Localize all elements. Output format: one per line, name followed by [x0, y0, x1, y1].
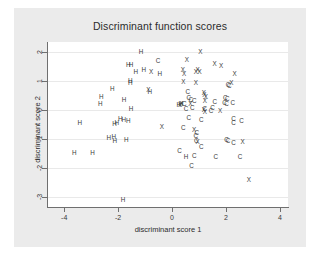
data-point-x: X: [182, 71, 186, 77]
data-point-h: H: [98, 101, 103, 107]
data-point-c: C: [230, 100, 235, 106]
chart-title: Discriminant function scores: [14, 20, 306, 32]
data-point-c: C: [213, 154, 218, 160]
y-tick: [42, 197, 47, 198]
data-point-c: C: [184, 106, 189, 112]
data-point-c: C: [192, 153, 197, 159]
data-point-h: H: [128, 79, 133, 85]
data-point-c: C: [238, 154, 243, 160]
data-point-x: X: [218, 107, 222, 113]
data-point-h: H: [158, 71, 163, 77]
data-point-x: X: [197, 69, 201, 75]
data-point-h: H: [124, 137, 129, 143]
x-tick-label: 0: [170, 214, 174, 221]
data-point-h: H: [72, 150, 77, 156]
data-point-x: X: [203, 98, 207, 104]
data-point-c: C: [156, 58, 161, 64]
data-point-c: C: [181, 125, 186, 131]
x-tick: [172, 207, 173, 212]
data-point-h: H: [112, 121, 117, 127]
data-point-x: X: [241, 139, 245, 145]
x-tick: [226, 207, 227, 212]
data-point-c: C: [189, 162, 194, 168]
data-point-h: H: [78, 120, 83, 126]
data-point-c: C: [177, 148, 182, 154]
x-tick: [280, 207, 281, 212]
data-point-h: H: [121, 197, 126, 203]
data-point-c: C: [226, 138, 231, 144]
x-tick: [64, 207, 65, 212]
gridline: [48, 168, 288, 169]
data-point-h: H: [134, 68, 139, 74]
y-tick: [42, 139, 47, 140]
data-point-x: X: [160, 124, 164, 130]
data-point-c: C: [210, 105, 215, 111]
x-tick-label: -4: [61, 214, 67, 221]
data-point-h: H: [139, 48, 144, 54]
y-tick: [42, 168, 47, 169]
data-point-x: X: [194, 79, 198, 85]
data-point-h: H: [110, 86, 115, 92]
gridline: [48, 52, 288, 53]
data-point-x: X: [213, 61, 217, 67]
gridline: [48, 197, 288, 198]
data-point-c: C: [199, 117, 204, 123]
y-tick-label: 2: [37, 50, 44, 54]
data-point-x: X: [185, 57, 189, 63]
data-point-c: C: [231, 140, 236, 146]
data-point-c: C: [185, 89, 190, 95]
data-point-c: C: [231, 120, 236, 126]
data-point-c: C: [239, 118, 244, 124]
gridline: [48, 81, 288, 82]
x-tick-label: 4: [278, 214, 282, 221]
data-point-x: X: [203, 108, 207, 114]
plot-area: HHHHHHHHHHHHHHHHHHHHHHHHHHHHHHCCCCCCCCCC…: [48, 42, 288, 207]
y-axis-line: [47, 42, 48, 208]
data-point-x: X: [192, 127, 196, 133]
chart-figure: Discriminant function scores HHHHHHHHHHH…: [14, 8, 306, 247]
data-point-x: X: [232, 71, 236, 77]
data-point-x: X: [181, 79, 185, 85]
data-point-h: H: [126, 118, 131, 124]
data-point-x: X: [178, 102, 182, 108]
data-point-h: H: [184, 154, 189, 160]
x-tick: [118, 207, 119, 212]
data-point-x: X: [198, 48, 202, 54]
data-point-x: X: [247, 177, 251, 183]
data-point-h: H: [113, 138, 118, 144]
data-point-x: X: [194, 69, 198, 75]
data-point-x: X: [196, 139, 200, 145]
y-axis-title: discriminant score 2: [33, 55, 42, 205]
data-point-h: H: [129, 106, 134, 112]
data-point-x: X: [229, 80, 233, 86]
data-point-h: H: [141, 67, 146, 73]
x-tick-label: 2: [224, 214, 228, 221]
gridline: [48, 139, 288, 140]
x-axis-title: discriminant score 1: [47, 225, 289, 234]
data-point-x: X: [149, 69, 153, 75]
data-point-h: H: [106, 134, 111, 140]
data-point-c: C: [187, 115, 192, 121]
data-point-x: X: [219, 63, 223, 69]
data-point-c: C: [225, 96, 230, 102]
data-point-h: H: [90, 150, 95, 156]
x-axis-line: [47, 207, 289, 208]
data-point-x: X: [146, 87, 150, 93]
gridline: [48, 110, 288, 111]
x-tick-label: -2: [115, 214, 121, 221]
data-point-h: H: [122, 96, 127, 102]
data-point-x: X: [188, 101, 192, 107]
